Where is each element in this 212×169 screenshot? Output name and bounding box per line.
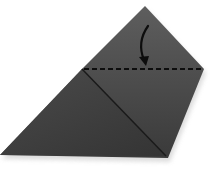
origami-diagram	[0, 0, 212, 169]
